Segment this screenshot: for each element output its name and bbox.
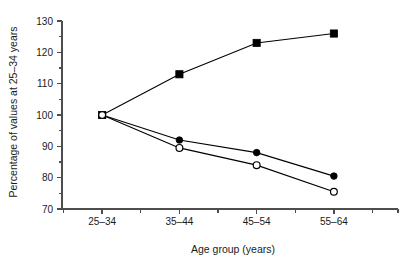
data-point-marker — [176, 137, 183, 144]
y-axis: 708090100110120130 — [36, 16, 62, 215]
x-axis: 25–3435–4445–5455–64 — [62, 209, 398, 227]
data-point-marker — [176, 71, 183, 78]
data-point-marker — [253, 149, 260, 156]
data-point-marker — [253, 39, 260, 46]
data-point-marker — [176, 145, 183, 152]
y-axis-tick-label: 130 — [36, 16, 53, 27]
x-axis-tick-label: 45–54 — [243, 216, 271, 227]
data-point-marker — [330, 30, 337, 37]
chart-figure: 708090100110120130 25–3435–4445–5455–64 … — [0, 0, 408, 263]
data-point-marker — [330, 188, 337, 195]
chart-plot-area: 708090100110120130 25–3435–4445–5455–64 … — [0, 0, 408, 263]
series-line-filled-square-series — [102, 34, 334, 115]
y-axis-tick-label: 100 — [36, 110, 53, 121]
x-axis-tick-label: 55–64 — [320, 216, 348, 227]
y-axis-tick-label: 90 — [42, 141, 54, 152]
y-axis-tick-label: 120 — [36, 47, 53, 58]
data-point-marker — [99, 112, 106, 119]
y-axis-tick-label: 70 — [42, 204, 54, 215]
y-axis-tick-label: 80 — [42, 172, 54, 183]
data-point-marker — [253, 162, 260, 169]
data-series-group — [99, 30, 338, 195]
y-axis-title: Percentage of values at 25–34 years — [7, 26, 19, 197]
x-axis-tick-label: 35–44 — [166, 216, 194, 227]
y-axis-tick-label: 110 — [37, 78, 53, 89]
x-axis-tick-label: 25–34 — [88, 216, 116, 227]
x-axis-title: Age group (years) — [191, 243, 275, 255]
series-line-filled-circle-series — [102, 115, 334, 176]
data-point-marker — [331, 173, 338, 180]
